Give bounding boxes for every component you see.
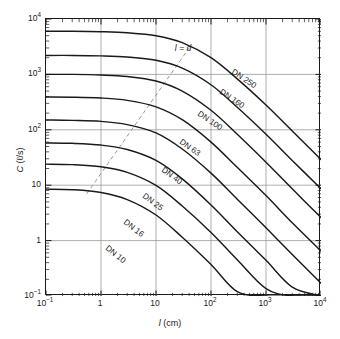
- curve-label-dn-10: DN 10: [104, 244, 128, 266]
- curves-group: [46, 31, 321, 296]
- conductance-vs-length-chart: DN 250DN 160DN 100DN 63DN 40DN 25DN 16DN…: [0, 0, 340, 339]
- y-tick-label-1: 103: [10, 69, 41, 78]
- curve-label-dn-250: DN 250: [230, 67, 258, 90]
- x-tick-label-5: 104: [314, 299, 327, 308]
- curve-label-dn-40: DN 40: [160, 165, 184, 186]
- y-tick-label-4: 1: [10, 236, 41, 245]
- y-axis-title: C (ℓ/s): [15, 148, 25, 173]
- x-tick-label-0: 10−1: [37, 299, 54, 308]
- y-tick-label-5: 10−1: [10, 291, 41, 300]
- plot-area: DN 250DN 160DN 100DN 63DN 40DN 25DN 16DN…: [45, 18, 320, 295]
- y-tick-label-0: 104: [10, 14, 41, 23]
- curve-label-dn-16: DN 16: [122, 217, 146, 239]
- annotation-l-equals-d: l = d: [175, 43, 192, 53]
- curve-label-dn-160: DN 160: [218, 87, 246, 110]
- x-tick-label-2: 10: [150, 299, 159, 308]
- plot-canvas: DN 250DN 160DN 100DN 63DN 40DN 25DN 16DN…: [46, 19, 321, 296]
- curve-label-dn-25: DN 25: [141, 191, 165, 212]
- y-tick-label-2: 102: [10, 125, 41, 134]
- x-tick-label-3: 102: [204, 299, 217, 308]
- y-tick-label-3: 10: [10, 180, 41, 189]
- x-axis-title: l (cm): [159, 318, 182, 328]
- x-tick-label-1: 1: [98, 299, 103, 308]
- x-tick-label-4: 103: [259, 299, 272, 308]
- curve-label-dn-100: DN 100: [196, 109, 224, 132]
- curve-dn-160: [46, 55, 321, 188]
